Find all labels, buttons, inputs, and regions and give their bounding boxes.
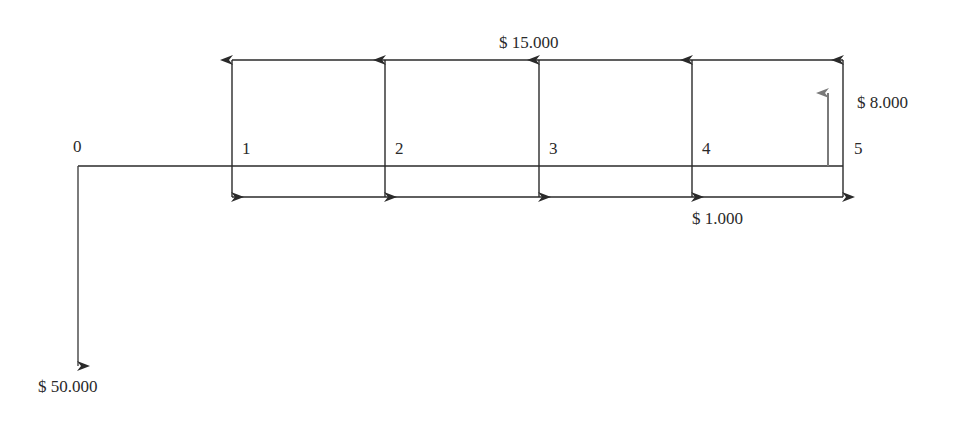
income-label: $ 15.000 xyxy=(499,34,559,51)
period-arrows xyxy=(232,60,843,197)
period-label-3: 3 xyxy=(549,140,558,157)
salvage-label: $ 8.000 xyxy=(857,94,908,111)
period-label-4: 4 xyxy=(702,140,711,157)
period-label-5: 5 xyxy=(854,140,863,157)
period-label-2: 2 xyxy=(395,140,404,157)
period-label-0: 0 xyxy=(73,138,82,155)
investment-label: $ 50.000 xyxy=(38,378,98,395)
period-label-1: 1 xyxy=(242,140,251,157)
cash-flow-diagram xyxy=(0,0,977,424)
expense-label: $ 1.000 xyxy=(692,210,743,227)
